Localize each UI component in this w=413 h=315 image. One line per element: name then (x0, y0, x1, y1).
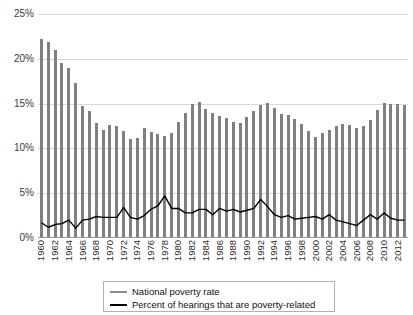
x-axis-tick-label: 1978 (160, 240, 170, 261)
x-axis-tick-label: 1996 (283, 240, 293, 261)
x-axis-tick-label: 1962 (50, 240, 60, 261)
x-axis-tick-label: 2012 (393, 240, 403, 261)
y-axis-tick-label: 5% (20, 188, 34, 198)
legend-line-icon-black (110, 304, 127, 306)
x-axis-tick-label: 1974 (132, 240, 142, 261)
y-axis-tick-label: 15% (14, 99, 34, 109)
legend-label: National poverty rate (132, 287, 220, 297)
y-axis-tick-label: 0% (20, 233, 34, 243)
x-axis-tick-label: 2006 (352, 240, 362, 261)
x-axis-tick-label: 1992 (256, 240, 266, 261)
legend-line-icon-gray (110, 291, 127, 293)
legend: National poverty rate Percent of hearing… (103, 281, 335, 312)
x-axis-tick-label: 1972 (119, 240, 129, 261)
x-axis-tick-label: 2010 (379, 240, 389, 261)
x-axis-tick-label: 1980 (173, 240, 183, 261)
x-axis-tick-label: 1964 (64, 240, 74, 261)
legend-item-national-poverty-rate: National poverty rate (110, 286, 328, 298)
line-series-poverty-hearings (38, 14, 408, 238)
x-axis-tick-label: 1960 (36, 240, 46, 261)
poverty-chart: 0%5%10%15%20%25% 19601962196419661968197… (0, 0, 413, 315)
x-axis-tick-label: 1984 (201, 240, 211, 261)
x-axis-tick-label: 1968 (91, 240, 101, 261)
line-path (41, 196, 404, 228)
x-axis-tick-label: 2000 (311, 240, 321, 261)
x-axis-tick-label: 1982 (187, 240, 197, 261)
x-axis-tick-label: 2002 (324, 240, 334, 261)
x-axis-tick-label: 1976 (146, 240, 156, 261)
x-axis-tick-label: 2008 (365, 240, 375, 261)
x-axis-tick-label: 1970 (105, 240, 115, 261)
y-axis-tick-label: 10% (14, 143, 34, 153)
legend-item-poverty-hearings: Percent of hearings that are poverty-rel… (110, 299, 328, 311)
y-axis-tick-label: 20% (14, 54, 34, 64)
plot-area (38, 14, 408, 238)
x-axis-tick-label: 1988 (228, 240, 238, 261)
x-axis-tick-label: 2004 (338, 240, 348, 261)
x-axis-labels: 1960196219641966196819701972197419761978… (38, 240, 408, 284)
x-axis-tick-label: 1998 (297, 240, 307, 261)
x-axis-tick-label: 1990 (242, 240, 252, 261)
x-axis-tick-label: 1966 (78, 240, 88, 261)
legend-label: Percent of hearings that are poverty-rel… (132, 300, 315, 310)
x-axis-tick-label: 1994 (269, 240, 279, 261)
y-axis-tick-label: 25% (14, 9, 34, 19)
x-axis-baseline (38, 237, 408, 238)
x-axis-tick-label: 1986 (215, 240, 225, 261)
y-axis-ticks: 0%5%10%15%20%25% (0, 14, 34, 238)
